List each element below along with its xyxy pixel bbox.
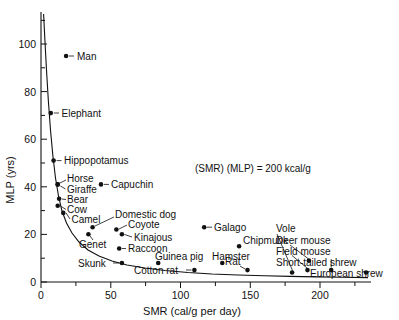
x-tick-label-0: 0 bbox=[38, 289, 44, 301]
label-horse: Horse bbox=[67, 173, 94, 184]
leader-horse bbox=[60, 180, 66, 183]
label-kinajous: Kinajous bbox=[134, 232, 172, 243]
y-tick-label-0: 0 bbox=[30, 276, 36, 288]
leader-kinajous bbox=[125, 235, 133, 238]
data-point-domestic-dog bbox=[90, 225, 95, 230]
label-capuchin: Capuchin bbox=[111, 179, 153, 190]
data-point-cotton-rat bbox=[192, 268, 197, 273]
y-tick-label-100: 100 bbox=[18, 38, 36, 50]
data-point-coyote bbox=[114, 227, 119, 232]
x-axis-ticks bbox=[41, 282, 355, 288]
label-galago: Galago bbox=[214, 222, 247, 233]
leader-bear bbox=[62, 199, 66, 200]
x-axis-title: SMR (cal/g per day) bbox=[143, 305, 241, 317]
label-man: Man bbox=[77, 51, 96, 62]
leader-rat bbox=[240, 266, 245, 269]
label-skunk: Skunk bbox=[78, 258, 107, 269]
data-point-kinajous bbox=[120, 232, 125, 237]
data-point-bear bbox=[57, 196, 62, 201]
scatter-plot: 0 20 40 60 80 100 0 50 100 150 200 SMR (… bbox=[0, 0, 399, 320]
label-field-mouse: Field mouse bbox=[276, 246, 331, 257]
chart-figure: 0 20 40 60 80 100 0 50 100 150 200 SMR (… bbox=[0, 0, 399, 320]
label-deer-mouse: Deer mouse bbox=[276, 235, 331, 246]
label-elephant: Elephant bbox=[62, 108, 102, 119]
label-camel: Camel bbox=[72, 214, 101, 225]
y-tick-label-20: 20 bbox=[24, 228, 36, 240]
data-point-skunk bbox=[120, 261, 125, 266]
label-european-shrew: European shrew bbox=[310, 268, 384, 279]
data-point-capuchin bbox=[99, 182, 104, 187]
label-short-tailed-shrew: Short-tailed shrew bbox=[276, 257, 357, 268]
x-tick-label-200: 200 bbox=[311, 289, 329, 301]
data-point-cow bbox=[55, 204, 60, 209]
label-guinea-pig: Guinea pig bbox=[155, 251, 203, 262]
data-point-elephant bbox=[49, 111, 54, 116]
label-vole: Vole bbox=[276, 223, 296, 234]
x-tick-label-150: 150 bbox=[242, 289, 260, 301]
data-point-man bbox=[64, 54, 69, 59]
label-genet: Genet bbox=[79, 239, 106, 250]
x-tick-label-100: 100 bbox=[172, 289, 190, 301]
y-tick-label-40: 40 bbox=[24, 181, 36, 193]
y-tick-label-80: 80 bbox=[24, 86, 36, 98]
leader-coyote bbox=[119, 225, 127, 229]
y-axis-title: MLP (yrs) bbox=[4, 156, 16, 203]
data-point-hippopotamus bbox=[51, 158, 56, 163]
data-point-vole bbox=[290, 270, 295, 275]
label-domestic-dog: Domestic dog bbox=[115, 209, 176, 220]
label-rat: Rat bbox=[225, 256, 241, 267]
data-point-raccoon bbox=[117, 246, 122, 251]
curve-equation-annotation: (SMR) (MLP) = 200 kcal/g bbox=[195, 163, 311, 174]
y-tick-label-60: 60 bbox=[24, 133, 36, 145]
x-tick-label-50: 50 bbox=[105, 289, 117, 301]
data-point-genet bbox=[86, 232, 91, 237]
label-hippopotamus: Hippopotamus bbox=[64, 155, 128, 166]
label-cotton-rat: Cotton rat bbox=[134, 265, 178, 276]
data-point-giraffe bbox=[55, 182, 60, 187]
data-point-camel bbox=[61, 211, 66, 216]
label-coyote: Coyote bbox=[128, 219, 160, 230]
data-point-galago bbox=[202, 225, 207, 230]
data-point-chipmunk bbox=[237, 244, 242, 249]
data-point-rat bbox=[245, 268, 250, 273]
leader-giraffe bbox=[61, 186, 66, 189]
